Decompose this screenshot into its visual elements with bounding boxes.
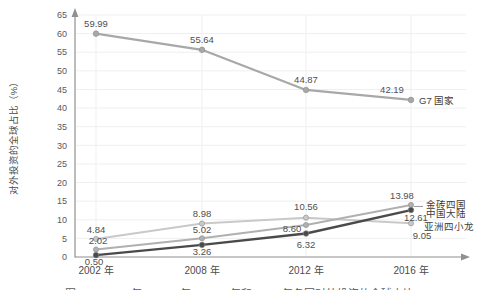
data-point-label: 8.60 <box>283 223 302 234</box>
data-point-label: 55.64 <box>190 34 214 45</box>
series-marker <box>408 97 414 103</box>
y-tick-label: 30 <box>57 141 67 151</box>
data-point-label: 6.32 <box>297 239 316 250</box>
series-marker <box>93 247 98 252</box>
data-point-label: 8.98 <box>193 208 212 219</box>
y-tick-label: 60 <box>57 29 67 39</box>
data-point-label: 12.61 <box>404 212 428 223</box>
data-point-label: 13.98 <box>390 190 414 201</box>
y-tick-label: 50 <box>57 66 67 76</box>
y-tick-label: 55 <box>57 47 67 57</box>
data-point-label: 42.19 <box>380 84 404 95</box>
x-category-label: 2016 年 <box>393 264 428 276</box>
data-point-label: 0.50 <box>85 256 104 267</box>
figure-container: 051015202530354045505560652002 年2008 年20… <box>0 0 479 290</box>
y-tick-label: 25 <box>57 159 67 169</box>
series-marker <box>408 202 413 207</box>
y-tick-label: 0 <box>62 252 67 262</box>
series-line-1 <box>96 205 411 250</box>
y-tick-label: 15 <box>57 196 67 206</box>
data-point-label: 44.87 <box>294 74 318 85</box>
data-point-label: 4.84 <box>87 224 106 235</box>
data-point-label: 2.02 <box>89 235 108 246</box>
y-tick-label: 40 <box>57 103 67 113</box>
y-axis-arrow <box>72 8 79 17</box>
chart-canvas: 051015202530354045505560652002 年2008 年20… <box>0 0 479 290</box>
y-tick-label: 20 <box>57 178 67 188</box>
series-marker <box>93 31 99 37</box>
series-marker <box>303 87 309 93</box>
series-line-0 <box>96 34 411 100</box>
data-point-label: 59.99 <box>84 18 108 29</box>
series-marker <box>199 236 204 241</box>
series-marker <box>303 215 308 220</box>
y-tick-label: 35 <box>57 122 67 132</box>
data-point-label: 5.02 <box>193 224 212 235</box>
x-category-label: 2008 年 <box>184 264 219 276</box>
series-name-label: 中国大陆 <box>426 208 466 219</box>
series-marker <box>303 222 308 227</box>
series-name-label: 亚洲四小龙 <box>424 221 474 232</box>
x-category-label: 2012 年 <box>288 264 323 276</box>
series-marker <box>199 47 205 53</box>
y-tick-label: 45 <box>57 85 67 95</box>
data-point-label: 3.26 <box>193 246 212 257</box>
figure-caption: 图 2-11 2002 年、2008 年、2012 年和 2016 年各国对外投… <box>0 285 479 290</box>
y-tick-label: 10 <box>57 215 67 225</box>
data-point-label: 10.56 <box>294 201 318 212</box>
y-axis-title: 对外投资的全球占比（%） <box>8 77 19 195</box>
series-name-label: G7 国家 <box>419 95 454 106</box>
series-marker <box>303 231 309 237</box>
x-axis-arrow <box>461 253 470 260</box>
y-tick-label: 65 <box>57 10 67 20</box>
y-tick-label: 5 <box>62 234 67 244</box>
